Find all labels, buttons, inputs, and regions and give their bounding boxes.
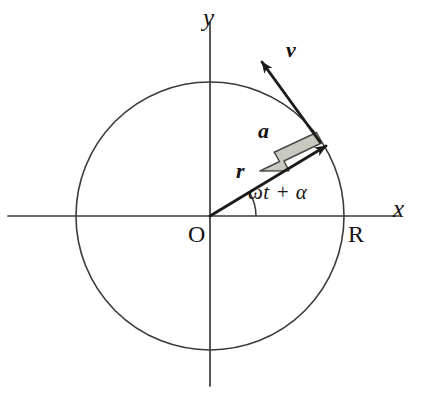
acceleration-vector bbox=[260, 133, 322, 172]
physics-figure-circular-motion: y x O R v a r ωt + α bbox=[0, 0, 427, 397]
acceleration-vector-label: a bbox=[258, 120, 269, 142]
origin-label: O bbox=[188, 222, 205, 246]
velocity-vector bbox=[262, 62, 320, 142]
figure-canvas bbox=[0, 0, 427, 397]
angle-label: ωt + α bbox=[248, 182, 307, 203]
x-axis-label: x bbox=[393, 196, 404, 221]
velocity-vector-label: v bbox=[286, 39, 296, 61]
position-vector-label: r bbox=[236, 160, 245, 182]
radius-label: R bbox=[348, 222, 364, 246]
y-axis-label: y bbox=[203, 5, 214, 30]
